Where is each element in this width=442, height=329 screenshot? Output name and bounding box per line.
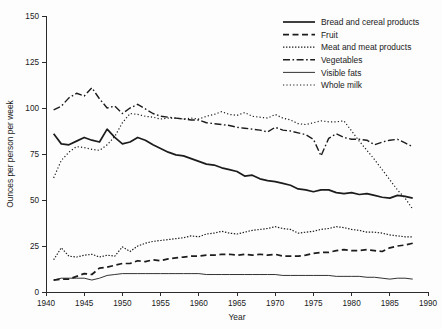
y-tick-label: 50	[30, 196, 40, 205]
y-axis: 0255075100125150	[25, 12, 46, 297]
legend-label: Whole milk	[321, 80, 363, 90]
y-tick-label: 0	[34, 288, 39, 297]
x-tick-label: 1950	[113, 299, 132, 308]
y-tick-label: 125	[25, 58, 39, 67]
x-tick-label: 1940	[37, 299, 56, 308]
x-tick-label: 1970	[266, 299, 285, 308]
x-tick-label: 1965	[228, 299, 247, 308]
y-tick-label: 75	[30, 150, 40, 159]
legend-label: Meat and meat products	[321, 42, 411, 52]
chart-container: 0255075100125150 19401945195019551960196…	[0, 0, 442, 329]
x-tick-label: 1945	[75, 299, 94, 308]
y-axis-title: Ounces per person per week	[5, 99, 15, 207]
x-tick-label: 1980	[342, 299, 361, 308]
y-tick-label: 25	[30, 242, 40, 251]
line-chart: 0255075100125150 19401945195019551960196…	[0, 0, 442, 329]
chart-legend: Bread and cereal productsFruitMeat and m…	[283, 17, 419, 90]
y-tick-label: 100	[25, 104, 39, 113]
series-lines	[54, 88, 413, 280]
legend-label: Vegetables	[321, 55, 362, 65]
x-tick-label: 1985	[381, 299, 400, 308]
x-axis: 1940194519501955196019651970197519801985…	[37, 292, 438, 308]
legend-label: Bread and cereal products	[321, 17, 419, 27]
series-line	[54, 274, 413, 280]
x-tick-label: 1960	[190, 299, 209, 308]
x-tick-label: 1975	[304, 299, 323, 308]
legend-label: Visible fats	[321, 68, 361, 78]
x-tick-label: 1990	[419, 299, 438, 308]
legend-label: Fruit	[321, 30, 338, 40]
x-tick-label: 1955	[151, 299, 170, 308]
x-axis-title: Year	[229, 312, 246, 322]
series-line	[54, 88, 413, 156]
y-tick-label: 150	[25, 12, 39, 21]
